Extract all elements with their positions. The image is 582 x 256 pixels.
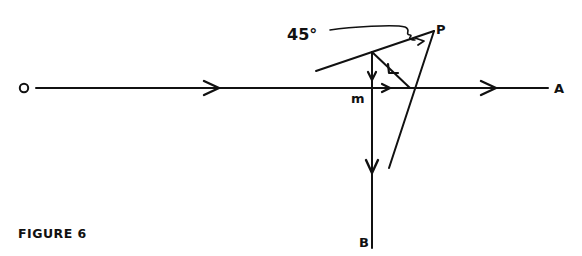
label-m: m [351, 91, 365, 106]
origin-marker-icon [20, 84, 28, 92]
optics-diagram: O A B m P 45° [0, 0, 582, 256]
angle-arrow-icon [415, 38, 424, 45]
figure-caption: FIGURE 6 [18, 226, 87, 241]
label-a: A [554, 81, 564, 96]
label-b: B [359, 235, 369, 250]
mirror-line [316, 31, 434, 71]
label-angle: 45° [287, 25, 317, 44]
line-from-p [389, 31, 434, 168]
angle-leader-line [330, 26, 415, 40]
label-p: P [436, 22, 446, 37]
reflected-ray [372, 52, 410, 88]
